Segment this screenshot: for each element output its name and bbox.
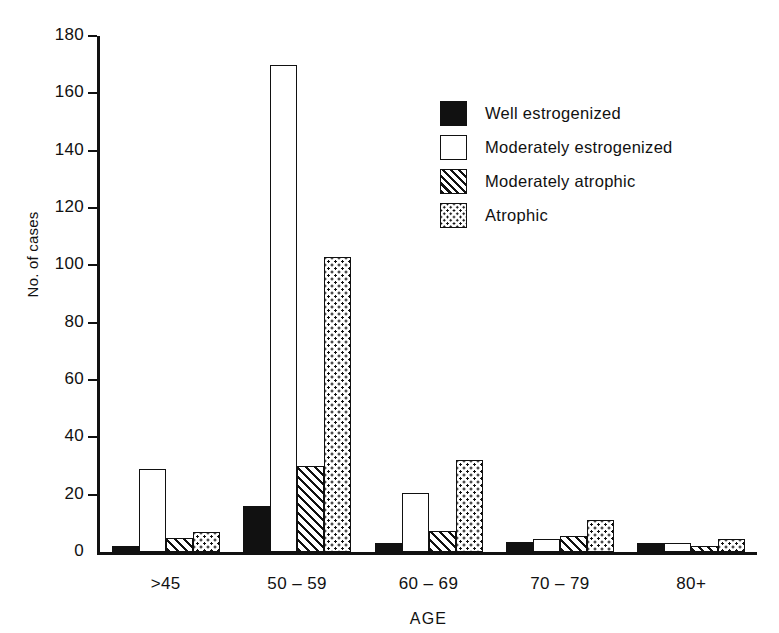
y-axis-tick-mark <box>88 494 97 496</box>
x-axis-line <box>97 552 757 555</box>
bar <box>637 543 664 552</box>
legend-item-label: Atrophic <box>485 206 548 225</box>
y-axis-tick-label: 100 <box>40 254 84 274</box>
x-axis-tick-label: 50 – 59 <box>237 574 357 594</box>
bar <box>664 543 691 552</box>
bar <box>402 493 429 552</box>
legend-swatch-hatch-icon <box>440 169 467 194</box>
y-axis-tick-label: 0 <box>40 541 84 561</box>
bar <box>139 469 166 552</box>
y-axis-tick-mark <box>88 264 97 266</box>
x-axis-tick-label: 60 – 69 <box>369 574 489 594</box>
bar <box>193 532 220 552</box>
bar <box>456 460 483 552</box>
legend-item-label: Well estrogenized <box>485 104 621 123</box>
y-axis-tick-label: 80 <box>40 312 84 332</box>
legend-swatch-dots-icon <box>440 203 467 228</box>
legend: Well estrogenizedModerately estrogenized… <box>440 96 673 232</box>
bar <box>324 257 351 552</box>
y-axis-tick-label: 180 <box>40 25 84 45</box>
bar <box>375 543 402 552</box>
legend-swatch-open-icon <box>440 135 467 160</box>
bar <box>533 539 560 552</box>
y-axis-tick-mark <box>88 207 97 209</box>
y-axis-tick-mark <box>88 436 97 438</box>
y-axis-tick-label: 40 <box>40 426 84 446</box>
x-axis-tick-label: 80+ <box>631 574 751 594</box>
y-axis-tick-mark <box>88 35 97 37</box>
bar <box>718 539 745 552</box>
y-axis-title: No. of cases <box>24 195 41 315</box>
bar <box>166 538 193 552</box>
y-axis-tick-mark <box>88 379 97 381</box>
bar <box>506 542 533 552</box>
bar <box>691 546 718 552</box>
bar <box>429 531 456 553</box>
bar <box>243 506 270 552</box>
legend-swatch-solid-icon <box>440 101 467 126</box>
y-axis-tick-label: 60 <box>40 369 84 389</box>
bar <box>297 466 324 552</box>
legend-item: Well estrogenized <box>440 96 673 130</box>
y-axis-tick-mark <box>88 92 97 94</box>
y-axis-tick-mark <box>88 322 97 324</box>
x-axis-title: AGE <box>329 610 529 628</box>
bar <box>587 520 614 552</box>
bar <box>560 536 587 552</box>
y-axis-line <box>97 36 100 555</box>
y-axis-tick-label: 160 <box>40 82 84 102</box>
legend-item: Moderately atrophic <box>440 164 673 198</box>
x-axis-tick-label: >45 <box>106 574 226 594</box>
y-axis-tick-mark <box>88 150 97 152</box>
bar-chart: No. of cases 020406080100120140160180 >4… <box>0 0 779 633</box>
bar <box>270 65 297 552</box>
y-axis-tick-label: 140 <box>40 140 84 160</box>
bar <box>112 546 139 552</box>
legend-item: Atrophic <box>440 198 673 232</box>
x-axis-tick-label: 70 – 79 <box>500 574 620 594</box>
legend-item: Moderately estrogenized <box>440 130 673 164</box>
legend-item-label: Moderately estrogenized <box>485 138 673 157</box>
y-axis-tick-label: 20 <box>40 484 84 504</box>
legend-item-label: Moderately atrophic <box>485 172 636 191</box>
y-axis-tick-label: 120 <box>40 197 84 217</box>
